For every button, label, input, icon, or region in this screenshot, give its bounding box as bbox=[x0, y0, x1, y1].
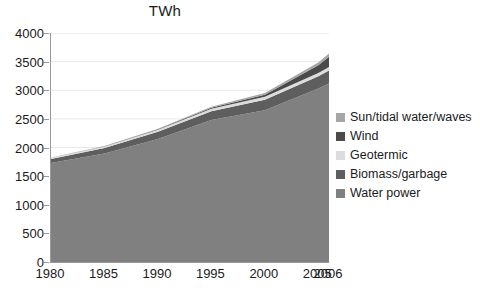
legend-item[interactable]: Geotermic bbox=[336, 146, 480, 164]
x-axis-tick-label: 2006 bbox=[314, 266, 343, 281]
area-series bbox=[51, 83, 329, 262]
legend-swatch-icon bbox=[336, 189, 345, 198]
y-axis-tick-mark bbox=[44, 176, 49, 177]
legend-item[interactable]: Water power bbox=[336, 184, 480, 202]
stacked-area-plot bbox=[51, 33, 329, 262]
x-axis-labels: 1980198519901995200020052006 bbox=[0, 266, 340, 288]
x-axis-tick-label: 1995 bbox=[196, 266, 225, 281]
y-axis-tick-label: 2000 bbox=[15, 140, 44, 155]
y-axis-tick-mark bbox=[44, 205, 49, 206]
y-axis-tick-label: 3500 bbox=[15, 54, 44, 69]
legend-swatch-icon bbox=[336, 170, 345, 179]
plot-area bbox=[50, 33, 329, 263]
y-axis-tick-label: 2500 bbox=[15, 111, 44, 126]
legend-item[interactable]: Sun/tidal water/waves bbox=[336, 108, 480, 126]
legend-label: Sun/tidal water/waves bbox=[350, 111, 472, 124]
y-axis-tick-mark bbox=[44, 233, 49, 234]
y-axis-tick-label: 1000 bbox=[15, 197, 44, 212]
legend-label: Water power bbox=[350, 187, 420, 200]
y-axis-tick-mark bbox=[44, 62, 49, 63]
x-axis-tick-label: 1985 bbox=[89, 266, 118, 281]
legend-label: Geotermic bbox=[350, 149, 408, 162]
y-axis-tick-mark bbox=[44, 148, 49, 149]
x-axis-tick-label: 1990 bbox=[142, 266, 171, 281]
chart-container: TWh 05001000150020002500300035004000 198… bbox=[0, 0, 480, 297]
x-axis-tick-label: 2000 bbox=[249, 266, 278, 281]
chart-title: TWh bbox=[0, 2, 330, 19]
x-axis-tick-label: 1980 bbox=[36, 266, 65, 281]
chart-legend: Sun/tidal water/wavesWindGeotermicBiomas… bbox=[336, 108, 480, 203]
legend-swatch-icon bbox=[336, 132, 345, 141]
legend-swatch-icon bbox=[336, 151, 345, 160]
legend-label: Biomass/garbage bbox=[350, 168, 447, 181]
y-axis-tick-mark bbox=[44, 33, 49, 34]
y-axis-tick-label: 3000 bbox=[15, 83, 44, 98]
y-axis-labels: 05001000150020002500300035004000 bbox=[0, 33, 44, 262]
y-axis-tick-mark bbox=[44, 119, 49, 120]
y-axis-tick-label: 1500 bbox=[15, 169, 44, 184]
y-axis-tick-label: 500 bbox=[22, 226, 44, 241]
y-axis-tick-label: 4000 bbox=[15, 26, 44, 41]
legend-item[interactable]: Wind bbox=[336, 127, 480, 145]
legend-label: Wind bbox=[350, 130, 378, 143]
y-axis-tick-mark bbox=[44, 90, 49, 91]
legend-item[interactable]: Biomass/garbage bbox=[336, 165, 480, 183]
legend-swatch-icon bbox=[336, 113, 345, 122]
y-axis-tick-mark bbox=[44, 262, 49, 263]
